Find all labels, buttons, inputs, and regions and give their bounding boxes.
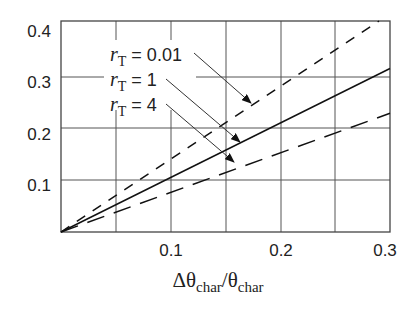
arrow-rT-0.01 bbox=[194, 53, 251, 103]
x-axis-label: Δθchar/θchar bbox=[172, 268, 263, 295]
line-chart: rT = 0.01 rT = 1 rT = 4 0.4 0.3 0.2 0.1 … bbox=[0, 0, 416, 313]
y-axis-ticks: 0.4 0.3 0.2 0.1 bbox=[27, 22, 51, 195]
x-tick: 0.2 bbox=[269, 241, 293, 260]
y-tick: 0.3 bbox=[27, 73, 51, 92]
x-tick: 0.3 bbox=[373, 241, 397, 260]
arrow-rT-1 bbox=[166, 79, 240, 142]
x-tick: 0.1 bbox=[159, 241, 183, 260]
label-rT-4: rT = 4 bbox=[110, 93, 157, 119]
y-tick: 0.2 bbox=[27, 125, 51, 144]
x-axis-ticks: 0.1 0.2 0.3 bbox=[159, 241, 397, 260]
y-tick: 0.1 bbox=[27, 176, 51, 195]
y-tick: 0.4 bbox=[27, 22, 51, 41]
arrow-rT-4 bbox=[166, 104, 234, 162]
